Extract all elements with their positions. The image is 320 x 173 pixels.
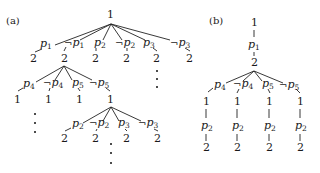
node: 2 bbox=[266, 141, 273, 154]
node: 2 bbox=[30, 52, 37, 65]
edge-label-not-p4: ¬p4 bbox=[43, 76, 63, 90]
node: 1 bbox=[45, 93, 52, 106]
edge-label-p4: p4 bbox=[214, 78, 226, 92]
edge-label-not-p1: ¬p1 bbox=[64, 36, 84, 50]
node: 1 bbox=[266, 95, 273, 108]
b-chains: 1 1 1 1 p2 p2 p2 p2 2 2 2 2 bbox=[201, 95, 307, 154]
node: 1 bbox=[14, 93, 21, 106]
level1-nodes: 2 2 2 2 2 2 bbox=[30, 52, 193, 65]
node: 2 bbox=[186, 52, 193, 65]
level1-edges bbox=[35, 24, 190, 52]
edge-label-p4: p4 bbox=[23, 77, 35, 91]
edge-label-p2: p2 bbox=[201, 119, 213, 133]
panel-b: (b) 1 p1 2 p4 ¬p4 p5 ¬p5 1 1 1 1 bbox=[201, 15, 307, 154]
panel-a-label: (a) bbox=[6, 15, 20, 26]
node: 2 bbox=[123, 132, 130, 145]
ellipsis-dots bbox=[110, 143, 112, 164]
level2-nodes: 1 1 1 1 bbox=[14, 93, 114, 106]
edge-label-not-p4: ¬p4 bbox=[233, 77, 253, 91]
edge-label-not-p5: ¬p5 bbox=[279, 78, 299, 92]
decision-tree-figure: (a) 1 p1 ¬p1 p2 ¬p2 p3 ¬p3 bbox=[0, 0, 320, 173]
node: 1 bbox=[203, 95, 210, 108]
edge-label-p2: p2 bbox=[72, 117, 84, 131]
edge-label-p3: p3 bbox=[143, 36, 155, 50]
node: 1 bbox=[107, 93, 114, 106]
ellipsis-dots bbox=[34, 113, 36, 133]
edge-label-not-p5: ¬p5 bbox=[89, 76, 109, 90]
node: 2 bbox=[234, 141, 241, 154]
root-node: 1 bbox=[107, 8, 114, 21]
node: 2 bbox=[92, 52, 99, 65]
node: 1 bbox=[297, 95, 304, 108]
root-node: 1 bbox=[251, 16, 258, 29]
ellipsis-dots bbox=[156, 70, 158, 88]
level2-labels: p4 ¬p4 p5 ¬p5 bbox=[23, 76, 109, 91]
edge-label-p5: p5 bbox=[72, 76, 84, 90]
edge-label-p5: p5 bbox=[262, 77, 274, 91]
node: 2 bbox=[297, 141, 304, 154]
level1-labels: p1 ¬p1 p2 ¬p2 p3 ¬p3 bbox=[40, 36, 190, 51]
node: 2 bbox=[153, 52, 160, 65]
b-level2-labels: p4 ¬p4 p5 ¬p5 bbox=[214, 77, 299, 92]
edge-label-p2: p2 bbox=[232, 119, 244, 133]
edge-label-p1: p1 bbox=[248, 38, 260, 52]
panel-b-label: (b) bbox=[209, 15, 223, 26]
panel-a: (a) 1 p1 ¬p1 p2 ¬p2 p3 ¬p3 bbox=[6, 8, 193, 164]
level3-labels: p2 ¬p2 p3 ¬p3 bbox=[72, 116, 158, 131]
node: 2 bbox=[251, 56, 258, 69]
node: 2 bbox=[123, 52, 130, 65]
node: 2 bbox=[61, 132, 68, 145]
node: 1 bbox=[76, 93, 83, 106]
edge-label-not-p2: ¬p2 bbox=[115, 36, 135, 50]
node: 2 bbox=[203, 141, 210, 154]
edge-label-p2: p2 bbox=[264, 119, 276, 133]
node: 2 bbox=[61, 52, 68, 65]
edge-label-p1: p1 bbox=[40, 37, 52, 51]
edge-label-p3: p3 bbox=[118, 116, 130, 130]
edge-label-not-p2: ¬p2 bbox=[89, 116, 109, 130]
edge-label-p2: p2 bbox=[295, 119, 307, 133]
node: 1 bbox=[234, 95, 241, 108]
edge-label-not-p3: ¬p3 bbox=[170, 36, 190, 50]
edge-label-not-p3: ¬p3 bbox=[138, 116, 158, 130]
node: 2 bbox=[154, 132, 161, 145]
node: 2 bbox=[92, 132, 99, 145]
